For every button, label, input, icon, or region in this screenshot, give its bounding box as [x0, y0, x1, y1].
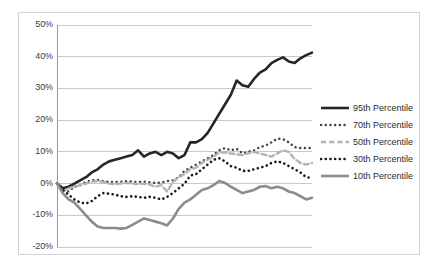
legend-label: 10th Percentile — [353, 171, 413, 181]
legend-item[interactable]: 70th Percentile — [320, 116, 432, 133]
y-axis-tick-label: 20% — [3, 115, 53, 124]
legend-label: 30th Percentile — [353, 154, 413, 164]
legend-item[interactable]: 30th Percentile — [320, 150, 432, 167]
legend-swatch-icon — [320, 153, 350, 165]
y-axis-tick-label: 0% — [3, 179, 53, 188]
y-axis-tick-label: -20% — [3, 242, 53, 251]
legend-item[interactable]: 50th Percentile — [320, 133, 432, 150]
series-line — [57, 181, 312, 229]
legend-swatch-icon — [320, 102, 350, 114]
y-axis-tick-label: 10% — [3, 147, 53, 156]
y-axis-tick-label: 30% — [3, 83, 53, 92]
plot-area — [57, 25, 312, 247]
y-axis-tick-label: 40% — [3, 52, 53, 61]
legend-swatch-icon — [320, 170, 350, 182]
legend-swatch-icon — [320, 136, 350, 148]
legend-swatch-icon — [320, 119, 350, 131]
y-axis: 50%40%30%20%10%0%-10%-20% — [0, 25, 53, 247]
chart-legend: 95th Percentile70th Percentile50th Perce… — [320, 99, 432, 184]
legend-item[interactable]: 10th Percentile — [320, 167, 432, 184]
legend-item[interactable]: 95th Percentile — [320, 99, 432, 116]
y-axis-tick-label: 50% — [3, 20, 53, 29]
plot-svg — [57, 25, 312, 247]
legend-label: 70th Percentile — [353, 120, 413, 130]
legend-label: 50th Percentile — [353, 137, 413, 147]
legend-label: 95th Percentile — [353, 103, 413, 113]
chart-container: 50%40%30%20%10%0%-10%-20% 95th Percentil… — [0, 0, 439, 267]
y-axis-tick-label: -10% — [3, 210, 53, 219]
